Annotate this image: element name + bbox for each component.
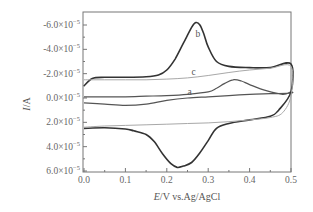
x-axis-ticks: 0.00.10.20.30.40.5 [78, 168, 297, 185]
curve-label-b: b [195, 29, 200, 39]
x-tick-label: 0.4 [244, 175, 256, 185]
x-tick-label: 0.1 [119, 175, 131, 185]
y-axis-ticks: -6.0×10−5-4.0×10−5-2.0×10−50.0×10−52.0×1… [43, 18, 87, 176]
y-tick-label: 2.0×10−5 [46, 115, 80, 127]
y-tick-label: 6.0×10−5 [46, 164, 80, 176]
y-tick-label: -6.0×10−5 [43, 18, 80, 30]
curve-labels: bca [187, 29, 200, 97]
y-tick-label: 4.0×10−5 [46, 140, 80, 152]
x-tick-label: 0.5 [285, 175, 297, 185]
y-tick-label: 0.0×10−5 [46, 91, 80, 103]
x-tick-label: 0.2 [161, 175, 173, 185]
curve-label-c: c [192, 67, 196, 77]
y-tick-label: -4.0×10−5 [43, 42, 80, 54]
cv-chart: -6.0×10−5-4.0×10−5-2.0×10−50.0×10−52.0×1… [0, 0, 313, 212]
y-tick-label: -2.0×10−5 [43, 67, 80, 79]
x-tick-label: 0.0 [78, 175, 90, 185]
x-tick-label: 0.3 [202, 175, 214, 185]
curve-label-a: a [187, 87, 192, 97]
y-axis-title: I/A [21, 97, 32, 112]
x-axis-title: E/V vs.Ag/AgCl [153, 191, 221, 202]
